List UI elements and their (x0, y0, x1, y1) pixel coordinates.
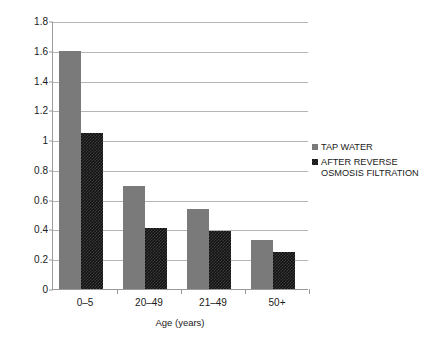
bar[interactable] (145, 228, 167, 289)
bar[interactable] (81, 133, 103, 289)
x-axis-tick-label: 50+ (269, 298, 286, 308)
y-axis-tick-mark (49, 290, 53, 291)
chart-legend: TAP WATERAFTER REVERSE OSMOSIS FILTRATIO… (312, 142, 434, 183)
x-axis-tick-mark (181, 289, 182, 294)
y-axis-tick-label: 0.2 (34, 255, 48, 265)
y-axis-tick-label: 1.2 (34, 106, 48, 116)
bar[interactable] (273, 252, 295, 289)
y-axis-tick-label: 0.8 (34, 166, 48, 176)
y-axis-tick-label: 0.4 (34, 225, 48, 235)
x-axis-tick-label: 0–5 (77, 298, 94, 308)
legend-label: AFTER REVERSE OSMOSIS FILTRATION (321, 157, 419, 179)
x-axis-tick-label: 21–49 (199, 298, 227, 308)
legend-entry[interactable]: TAP WATER (312, 142, 434, 153)
y-axis-tick-label: 1.8 (34, 17, 48, 27)
y-axis-tick-label: 1 (42, 136, 48, 146)
y-axis-tick-label: 0.6 (34, 196, 48, 206)
x-axis-tick-mark (245, 289, 246, 294)
bar[interactable] (187, 209, 209, 289)
legend-label: TAP WATER (321, 142, 373, 153)
plot-area: 00.20.40.60.811.21.41.61.80–520–4921–495… (52, 22, 308, 290)
bar[interactable] (59, 51, 81, 289)
legend-entry[interactable]: AFTER REVERSE OSMOSIS FILTRATION (312, 157, 434, 179)
bar-group (245, 22, 309, 289)
bar-group (181, 22, 245, 289)
bar-chart: Incidence of HCGI 00.20.40.60.811.21.41.… (0, 0, 437, 339)
bar[interactable] (251, 240, 273, 289)
y-axis-tick-label: 1.4 (34, 77, 48, 87)
legend-swatch-icon (312, 159, 318, 165)
bar[interactable] (123, 186, 145, 289)
y-axis-tick-label: 0 (42, 285, 48, 295)
legend-swatch-icon (312, 144, 318, 150)
x-axis-tick-label: 20–49 (135, 298, 163, 308)
x-axis-tick-mark (309, 289, 310, 294)
bar-group (117, 22, 181, 289)
x-axis-title: Age (years) (52, 317, 308, 328)
bar[interactable] (209, 231, 231, 289)
bar-group (53, 22, 117, 289)
y-axis-tick-label: 1.6 (34, 47, 48, 57)
x-axis-tick-mark (117, 289, 118, 294)
